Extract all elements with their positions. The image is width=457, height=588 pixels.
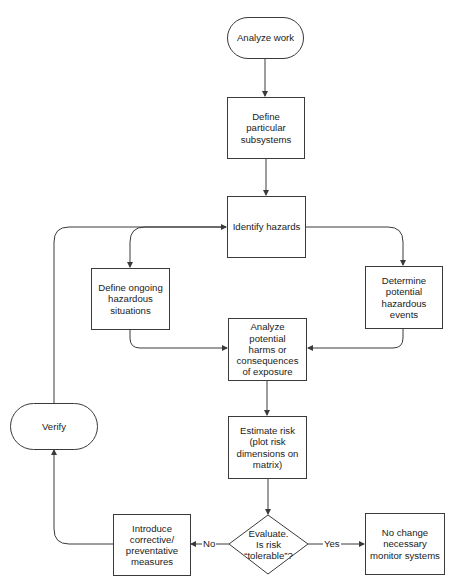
- node-label: Identify hazards: [233, 221, 301, 232]
- node-label: Introduce corrective/ preventative measu…: [126, 523, 178, 568]
- node-label: Evaluate. Is risk “tolerable”?: [244, 528, 293, 562]
- edge-identify-to-define-ongoing: [130, 227, 226, 267]
- edge-introduce-to-verify: [54, 450, 113, 544]
- node-identify-hazards: Identify hazards: [227, 196, 306, 258]
- edge-determine-events-to-analyze-harms: [308, 328, 403, 348]
- node-label: Define particular subsystems: [232, 111, 300, 145]
- node-define-subsystems: Define particular subsystems: [227, 97, 305, 159]
- node-estimate-risk: Estimate risk (plot risk dimensions on m…: [228, 416, 307, 479]
- node-label: Analyze potential harms or consequences …: [233, 321, 302, 377]
- node-analyze-potential-harms: Analyze potential harms or consequences …: [228, 318, 307, 381]
- node-label: No change necessary monitor systems: [370, 527, 440, 561]
- node-define-ongoing-situations: Define ongoing hazardous situations: [91, 268, 170, 330]
- node-label: Analyze work: [237, 32, 294, 43]
- node-analyze-work: Analyze work: [227, 17, 304, 59]
- node-label: Define ongoing hazardous situations: [98, 282, 163, 316]
- node-label: Verify: [42, 421, 66, 432]
- node-label: Determine potential hazardous events: [382, 275, 427, 320]
- node-evaluate-decision: Evaluate. Is risk “tolerable”?: [229, 515, 308, 574]
- edge-define-ongoing-to-analyze-harms: [130, 329, 227, 348]
- edge-label-yes: Yes: [323, 538, 341, 549]
- node-no-change: No change necessary monitor systems: [365, 513, 445, 575]
- node-introduce-measures: Introduce corrective/ preventative measu…: [113, 514, 191, 576]
- node-label: Estimate risk (plot risk dimensions on m…: [237, 425, 299, 470]
- edge-label-no: No: [202, 538, 216, 549]
- edge-identify-to-determine-events: [305, 227, 403, 265]
- node-determine-hazardous-events: Determine potential hazardous events: [365, 266, 443, 329]
- node-verify: Verify: [10, 403, 98, 450]
